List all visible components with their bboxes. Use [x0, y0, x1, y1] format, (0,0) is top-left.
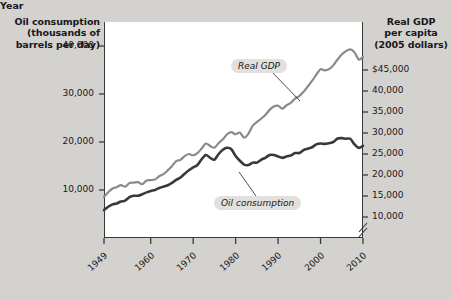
series-label-oil: Oil consumption	[214, 196, 301, 210]
series-label-real-gdp: Real GDP	[231, 59, 287, 73]
chart-figure: Oil consumption (thousands of barrels pe…	[0, 0, 452, 300]
data-lines-layer	[0, 0, 452, 300]
axis-ticks	[99, 46, 368, 244]
axis-break-marks	[359, 223, 367, 237]
series-paths	[104, 49, 363, 210]
